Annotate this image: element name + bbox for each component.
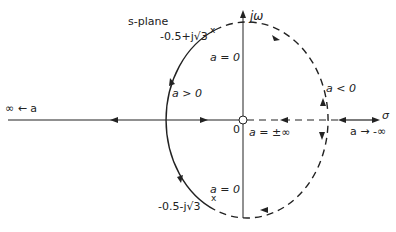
- mid-dashed-up-arrow-icon: [320, 98, 326, 106]
- upper-dashed-arrow-icon: [272, 35, 280, 41]
- right-neg-infinity-label: a → -∞: [350, 126, 386, 137]
- a-pm-infinity-label: a = ±∞: [249, 127, 290, 138]
- right-solid-arrow-icon: [338, 117, 346, 123]
- center-locus-arrow-icon: [200, 117, 208, 123]
- origin-label: 0: [233, 124, 240, 135]
- root-locus-diagram: x x s-plane jω -0.5+j√3 a = 0 a > 0 a < …: [0, 0, 396, 232]
- s-plane-label: s-plane: [128, 16, 168, 27]
- a-positive-label: a > 0: [172, 88, 202, 99]
- upper-a-zero-label: a = 0: [210, 52, 240, 63]
- real-axis-label: σ: [382, 110, 389, 121]
- lower-pole-label: -0.5-j√3: [158, 201, 201, 212]
- imaginary-axis-arrow-icon: [240, 10, 246, 18]
- mid-dashed-down-arrow-icon: [319, 132, 325, 140]
- upper-pole-x-icon: x: [210, 25, 216, 35]
- left-locus-arrow-icon: [110, 117, 118, 123]
- real-axis-arrow-icon: [372, 117, 380, 123]
- a-negative-label: a < 0: [326, 83, 356, 94]
- upper-pole-label: -0.5+j√3: [160, 31, 208, 42]
- right-dashed-arrow-icon: [280, 117, 288, 123]
- imag-axis-label: jω: [250, 10, 263, 22]
- lower-dashed-arrow-icon: [260, 207, 268, 213]
- lower-a-zero-label: a = 0: [210, 184, 240, 195]
- origin-zero-icon: [239, 116, 247, 124]
- left-infinity-label: ∞ ← a: [5, 103, 37, 114]
